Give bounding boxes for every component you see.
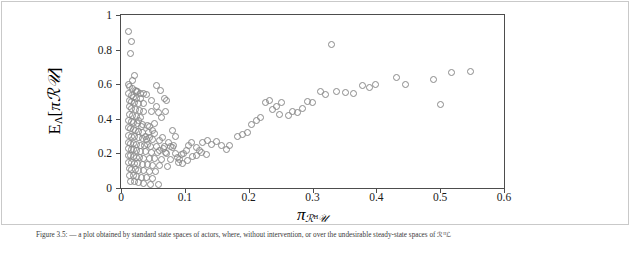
data-point: [342, 89, 349, 96]
data-point: [164, 163, 171, 170]
caption-text: Figure 3.5: — a plot obtained by standar…: [36, 231, 446, 239]
data-point: [203, 151, 210, 158]
figure-frame: EΛ[πℛ𝒰] πℛH𝒰 00.20.40.60.81 00.10.20.30.…: [1, 1, 629, 225]
data-point: [437, 101, 444, 108]
data-point: [244, 129, 251, 136]
data-point: [147, 181, 154, 188]
figure-page: EΛ[πℛ𝒰] πℛH𝒰 00.20.40.60.81 00.10.20.30.…: [0, 0, 632, 253]
data-point: [170, 142, 177, 149]
y-tick-label: 0.2: [98, 147, 112, 159]
x-tick-label: 0.1: [178, 191, 192, 203]
x-tick-label: 0: [118, 191, 124, 203]
data-point: [257, 114, 264, 121]
data-point: [402, 81, 409, 88]
data-point: [299, 105, 306, 112]
data-point: [333, 88, 340, 95]
data-point: [163, 97, 170, 104]
data-point: [133, 88, 140, 95]
y-tick-label: 0.8: [98, 44, 112, 56]
y-axis-title: EΛ[πℛ𝒰]: [44, 68, 65, 135]
scatter-plot-area: 00.20.40.60.81 00.10.20.30.40.50.6: [120, 14, 505, 189]
data-point: [162, 108, 169, 115]
data-point: [448, 69, 455, 76]
data-point: [151, 120, 158, 127]
data-point: [467, 68, 474, 75]
data-point: [131, 72, 138, 79]
data-point: [350, 90, 357, 97]
data-point: [226, 142, 233, 149]
data-point: [137, 95, 144, 102]
y-tick: [116, 50, 121, 51]
data-point: [266, 97, 273, 104]
data-point: [328, 41, 335, 48]
y-tick-label: 1: [106, 9, 112, 21]
figure-caption: Figure 3.5: — a plot obtained by standar…: [36, 230, 620, 240]
x-tick-label: 0.2: [241, 191, 255, 203]
data-point: [157, 87, 164, 94]
data-point: [309, 99, 316, 106]
x-tick-label: 0.3: [305, 191, 319, 203]
y-tick: [116, 84, 121, 85]
data-points-layer: [121, 15, 504, 188]
y-tick: [116, 119, 121, 120]
data-point: [138, 123, 145, 130]
y-tick-label: 0: [106, 182, 112, 194]
data-point: [430, 76, 437, 83]
y-tick-label: 0.4: [98, 113, 112, 125]
data-point: [278, 99, 285, 106]
x-axis-title: πℛH𝒰: [297, 205, 327, 225]
x-tick-label: 0.4: [369, 191, 383, 203]
y-tick: [116, 15, 121, 16]
caption-tail: ℒ: [446, 231, 451, 239]
data-point: [276, 111, 283, 118]
data-point: [172, 133, 179, 140]
y-tick: [116, 153, 121, 154]
data-point: [372, 81, 379, 88]
data-point: [155, 181, 162, 188]
data-point: [127, 50, 134, 57]
data-point: [359, 82, 366, 89]
y-tick-label: 0.6: [98, 78, 112, 90]
data-point: [128, 38, 135, 45]
data-point: [125, 28, 132, 35]
data-point: [322, 91, 329, 98]
data-point: [142, 133, 149, 140]
x-tick-label: 0.5: [433, 191, 447, 203]
x-tick-label: 0.6: [497, 191, 511, 203]
data-point: [393, 74, 400, 81]
